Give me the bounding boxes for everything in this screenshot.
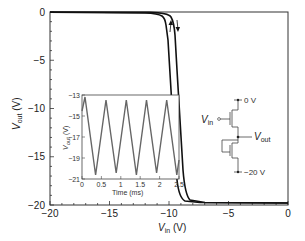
y-tick-label: 0 <box>39 7 45 18</box>
y-axis-label: Vout (V) <box>11 97 23 130</box>
vout-label: Vout <box>254 131 270 143</box>
y-tick-label: −20 <box>28 200 45 211</box>
x-tick-label: 0 <box>285 208 291 219</box>
inset-x-tick-label: 1.5 <box>135 181 145 188</box>
y-axis <box>50 12 54 205</box>
vout-node <box>237 136 240 139</box>
chart: −20 −15 −10 −5 0 0 −5 −10 −15 −20 Vin (V… <box>0 0 305 241</box>
inset-y-axis-label: Vout (V) <box>62 126 71 150</box>
vin-label: Vin <box>201 114 213 126</box>
vin-terminal <box>218 118 221 121</box>
inset-x-tick-label: 1 <box>119 181 123 188</box>
vss-label: −20 V <box>244 168 266 177</box>
vss-node <box>237 171 239 173</box>
inset-y-tick-label: −13 <box>68 92 80 99</box>
inset-x-tick-label: 2.5 <box>174 181 184 188</box>
vdd-label: 0 V <box>244 96 257 105</box>
y-tick-label: −10 <box>28 103 45 114</box>
x-tick-label: −5 <box>223 208 235 219</box>
inset-x-tick-label: 0.5 <box>97 181 107 188</box>
y-tick-label: −5 <box>34 55 46 66</box>
y-tick-label: −15 <box>28 151 45 162</box>
inset-y-tick-label: −19 <box>68 155 80 162</box>
inset-y-tick-label: −21 <box>68 176 80 183</box>
x-tick-label: −10 <box>161 208 178 219</box>
sweep-down-arrow-icon <box>176 20 181 32</box>
inset-x-axis-label: Time (ms) <box>112 189 143 197</box>
inset-x-tick-label: 2 <box>158 181 162 188</box>
vdd-node <box>237 99 239 101</box>
inset-chart: −13 −15 −17 −19 −21 0 0.5 1 1.5 2 2.5 Ti… <box>62 92 184 198</box>
inverter-circuit-schematic <box>220 100 252 172</box>
x-axis-label: Vin (V) <box>158 222 186 234</box>
x-tick-label: −15 <box>101 208 118 219</box>
inset-x-tick-label: 0 <box>80 181 84 188</box>
inset-y-tick-label: −15 <box>68 113 80 120</box>
